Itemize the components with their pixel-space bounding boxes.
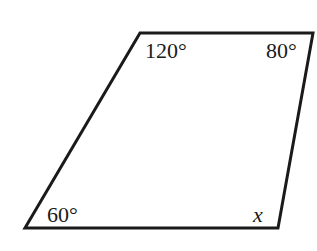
angle-label-top-left: 120°: [145, 38, 187, 63]
quadrilateral-diagram: 120° 80° 60° x: [0, 0, 317, 251]
angle-label-bottom-left: 60°: [47, 202, 78, 227]
angle-label-bottom-right: x: [252, 202, 263, 227]
angle-label-top-right: 80°: [266, 38, 297, 63]
